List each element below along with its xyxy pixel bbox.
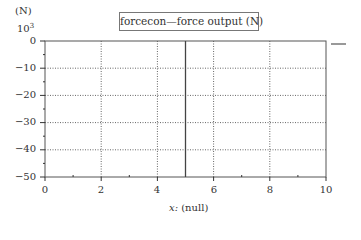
x-tick-label: 0 <box>35 185 55 195</box>
x-tick-label: 4 <box>147 185 167 195</box>
x-tick-label: 6 <box>204 185 224 195</box>
y-tick-label: −20 <box>6 90 36 100</box>
y-tick-label: 0 <box>6 36 36 46</box>
x-tick-label: 10 <box>316 185 336 195</box>
y-tick-label: −10 <box>6 63 36 73</box>
y-axis-ticks <box>40 41 45 177</box>
y-tick-label: −40 <box>6 144 36 154</box>
y-tick-label: −50 <box>6 172 36 182</box>
x-tick-label: 8 <box>260 185 280 195</box>
x-axis-unit: (null) <box>181 202 208 213</box>
x-axis-label: x: (null) <box>169 203 208 213</box>
y-tick-label: −30 <box>6 117 36 127</box>
x-axis-variable: x: <box>169 202 178 213</box>
x-tick-label: 2 <box>91 185 111 195</box>
